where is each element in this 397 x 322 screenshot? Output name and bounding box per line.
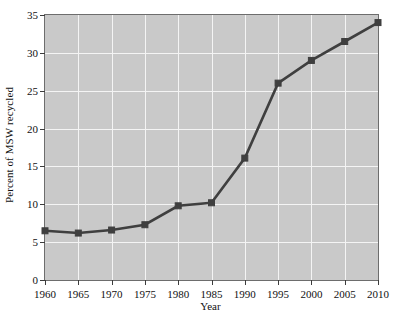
x-tick-mark (245, 280, 246, 285)
series-marker (42, 228, 48, 234)
y-tick-label: 0 (33, 274, 39, 286)
y-axis-title-text: Percent of MSW recycled (3, 87, 15, 203)
y-tick-label: 15 (27, 160, 38, 172)
x-tick-mark (45, 280, 46, 285)
x-tick-mark (311, 280, 312, 285)
x-tick-label: 1995 (267, 288, 289, 300)
x-tick-label: 2005 (334, 288, 356, 300)
x-tick-mark (212, 280, 213, 285)
y-tick-label: 30 (27, 47, 38, 59)
plot-area: 05101520253035 1960196519701975198019851… (44, 14, 379, 281)
y-tick-label: 5 (33, 236, 39, 248)
series-marker (308, 57, 314, 63)
series-marker (175, 203, 181, 209)
y-tick-label: 10 (27, 198, 38, 210)
chart-figure: Percent of MSW recycled 05101520253035 1… (0, 0, 397, 322)
series-marker (375, 20, 381, 26)
x-tick-label: 1980 (167, 288, 189, 300)
series-marker (209, 200, 215, 206)
x-tick-label: 1960 (34, 288, 56, 300)
x-tick-label: 2010 (367, 288, 389, 300)
x-tick-mark (345, 280, 346, 285)
series-marker (242, 155, 248, 161)
series-marker (109, 227, 115, 233)
x-tick-mark (78, 280, 79, 285)
y-tick-label: 25 (27, 85, 38, 97)
x-tick-mark (378, 280, 379, 285)
x-tick-label: 1985 (201, 288, 223, 300)
x-tick-label: 1990 (234, 288, 256, 300)
series-marker (75, 230, 81, 236)
series-recycling-rate (45, 15, 378, 280)
y-tick-label: 35 (27, 9, 38, 21)
series-marker (142, 222, 148, 228)
x-tick-mark (178, 280, 179, 285)
series-markers (42, 20, 381, 236)
x-tick-mark (112, 280, 113, 285)
y-tick-label: 20 (27, 123, 38, 135)
x-axis-title: Year (44, 300, 377, 312)
x-tick-label: 2000 (300, 288, 322, 300)
x-tick-label: 1975 (134, 288, 156, 300)
x-tick-mark (278, 280, 279, 285)
x-axis-title-text: Year (200, 300, 220, 312)
series-marker (275, 80, 281, 86)
x-tick-mark (145, 280, 146, 285)
series-marker (342, 39, 348, 45)
x-tick-label: 1965 (67, 288, 89, 300)
y-axis-title: Percent of MSW recycled (0, 0, 18, 290)
x-tick-label: 1970 (101, 288, 123, 300)
